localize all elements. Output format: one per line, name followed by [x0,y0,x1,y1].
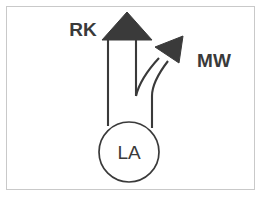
rk-arrowhead-icon [102,12,152,40]
mw-shaft-inner-line [136,58,159,96]
mw-shaft-outer-line [152,61,168,128]
diagram-page: LA RK MW [0,0,263,198]
la-node-label: LA [117,142,141,163]
mw-label: MW [197,50,231,71]
rk-label: RK [69,19,97,40]
flow-diagram: LA RK MW [0,0,263,198]
